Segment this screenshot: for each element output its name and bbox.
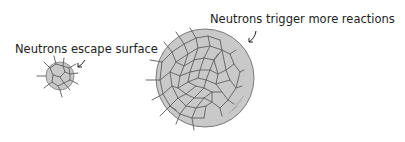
small-arrow-icon: [78, 60, 85, 67]
large-sphere: [146, 28, 254, 130]
fission-diagram: [0, 0, 405, 142]
large-arrow-icon: [249, 31, 256, 42]
small-sphere: [37, 56, 78, 97]
